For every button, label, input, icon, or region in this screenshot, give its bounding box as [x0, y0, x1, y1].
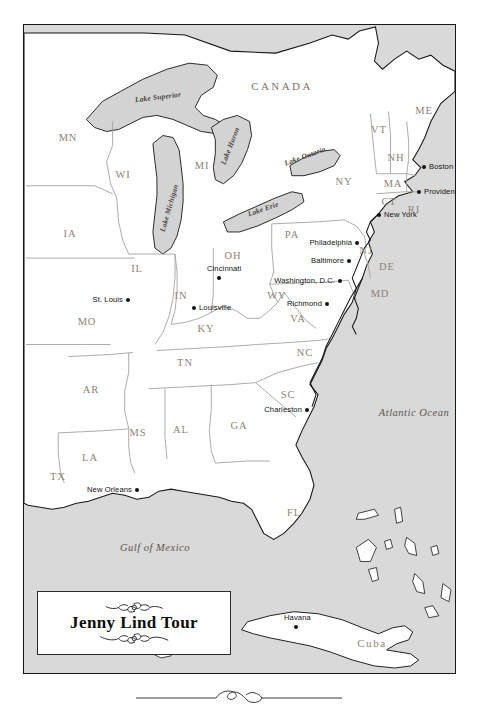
map-frame: CANADA Cuba Atlantic Ocean Gulf of Mexic…: [23, 24, 456, 674]
map-title: Jenny Lind Tour: [70, 614, 198, 633]
title-cartouche: Jenny Lind Tour: [37, 591, 231, 655]
swash-rule-ornament: [134, 687, 344, 709]
map-canvas: [24, 25, 455, 673]
map-geography-svg: [24, 25, 455, 673]
map-page: CANADA Cuba Atlantic Ocean Gulf of Mexic…: [0, 0, 477, 727]
scroll-ornament-bottom: [93, 633, 176, 644]
footer-flourish: [0, 687, 477, 709]
scroll-ornament-top: [93, 602, 176, 613]
